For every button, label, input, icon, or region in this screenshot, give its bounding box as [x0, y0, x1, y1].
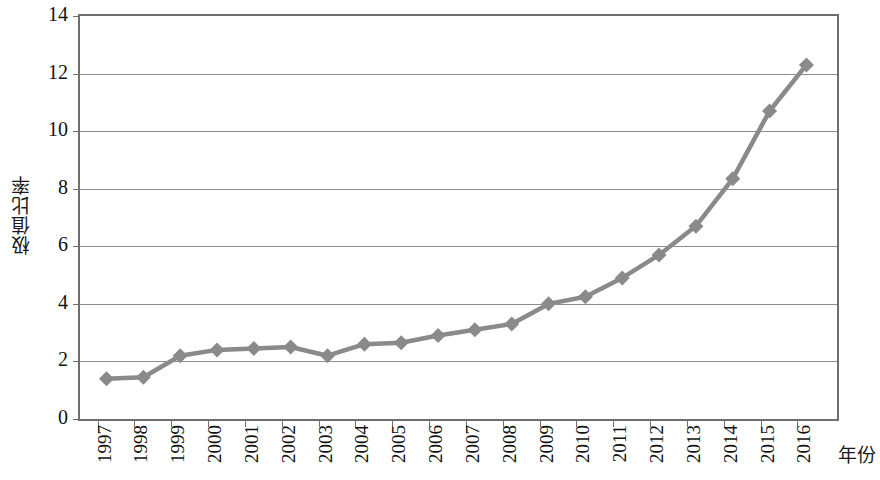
gridline — [80, 361, 837, 362]
series-polyline — [107, 65, 807, 379]
x-tick-label: 2007 — [463, 425, 482, 463]
gridline — [80, 189, 837, 190]
x-tick-label: 1997 — [95, 425, 114, 463]
line-chart: 极值比率 02468101214 19971998199920002001200… — [0, 0, 880, 480]
plot-area — [78, 14, 839, 421]
y-tick-label: 14 — [34, 4, 68, 24]
x-axis-title: 年份 — [838, 440, 876, 467]
y-tick-mark — [73, 189, 80, 190]
x-tick-label: 2000 — [205, 425, 224, 463]
y-axis-tick-labels: 02468101214 — [20, 0, 68, 480]
y-tick-mark — [73, 246, 80, 247]
y-tick-label: 6 — [34, 234, 68, 254]
data-point-marker — [467, 322, 482, 337]
data-point-marker — [283, 340, 298, 355]
y-tick-label: 10 — [34, 119, 68, 139]
y-tick-mark — [73, 16, 80, 17]
x-tick-label: 2010 — [573, 425, 592, 463]
y-tick-label: 12 — [34, 62, 68, 82]
data-point-marker — [578, 289, 593, 304]
gridline — [80, 131, 837, 132]
gridline — [80, 246, 837, 247]
data-point-marker — [246, 341, 261, 356]
series-line — [80, 16, 837, 419]
x-tick-label: 2003 — [316, 425, 335, 463]
data-point-marker — [431, 328, 446, 343]
x-tick-label: 2004 — [352, 425, 371, 463]
y-tick-label: 2 — [34, 349, 68, 369]
data-point-marker — [210, 342, 225, 357]
data-point-marker — [394, 335, 409, 350]
x-tick-label: 2013 — [684, 425, 703, 463]
x-tick-label: 1999 — [168, 425, 187, 463]
y-tick-label: 0 — [34, 407, 68, 427]
data-point-marker — [357, 337, 372, 352]
y-tick-label: 8 — [34, 177, 68, 197]
y-tick-mark — [73, 304, 80, 305]
y-tick-mark — [73, 74, 80, 75]
x-tick-label: 2014 — [721, 425, 740, 463]
x-tick-label: 2015 — [758, 425, 777, 463]
x-tick-label: 2008 — [500, 425, 519, 463]
x-tick-label: 2011 — [610, 425, 629, 462]
y-tick-label: 4 — [34, 292, 68, 312]
x-tick-label: 2006 — [426, 425, 445, 463]
y-tick-mark — [73, 131, 80, 132]
x-tick-label: 2001 — [242, 425, 261, 463]
x-tick-label: 2009 — [537, 425, 556, 463]
x-tick-label: 2016 — [794, 425, 813, 463]
x-tick-label: 2012 — [647, 425, 666, 463]
x-axis-tick-labels: 1997199819992000200120022003200420052006… — [78, 417, 838, 480]
x-tick-label: 2002 — [279, 425, 298, 463]
gridline — [80, 74, 837, 75]
y-tick-mark — [73, 361, 80, 362]
gridline — [80, 304, 837, 305]
data-point-marker — [99, 371, 114, 386]
x-tick-label: 1998 — [131, 425, 150, 463]
x-tick-label: 2005 — [389, 425, 408, 463]
